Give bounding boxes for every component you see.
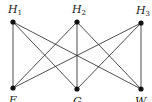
label-g: G: [73, 95, 82, 102]
label-h1: H1: [7, 3, 22, 17]
node-e: [10, 85, 15, 90]
label-e: E: [8, 94, 17, 102]
node-h2: [74, 19, 79, 24]
bipartite-graph: H1 H2 H3 E G W: [0, 0, 152, 102]
node-g: [74, 86, 79, 91]
edges: [13, 22, 141, 89]
label-h3: H3: [135, 4, 150, 18]
node-w: [138, 86, 143, 91]
node-h1: [10, 19, 15, 24]
label-h2: H2: [71, 3, 86, 17]
node-h3: [138, 20, 143, 25]
label-w: W: [135, 95, 148, 102]
